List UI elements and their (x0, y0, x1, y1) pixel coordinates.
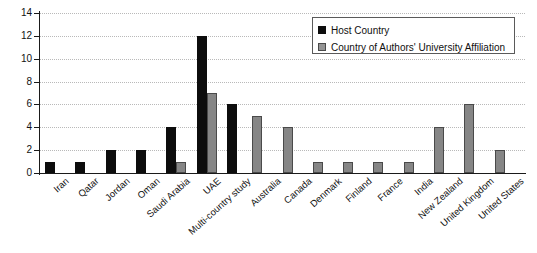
bar (197, 36, 207, 173)
bar-group (131, 13, 161, 173)
y-axis-tick-label: 14 (0, 8, 32, 18)
legend-label: Host Country (331, 25, 389, 36)
bar-group (161, 13, 191, 173)
x-axis-tick-label: Jordan (103, 176, 131, 203)
y-axis-tick-label: 8 (0, 77, 32, 87)
x-axis-labels: IranQatarJordanOmanSaudi ArabiaUAEMulti-… (40, 176, 537, 253)
y-axis-tick-label: 0 (0, 168, 32, 178)
bar-group (70, 13, 100, 173)
bar (404, 162, 414, 173)
chart-legend: Host Country Country of Authors' Univers… (312, 17, 515, 54)
bar (495, 150, 505, 173)
legend-label: Country of Authors' University Affiliati… (331, 42, 505, 53)
bar (434, 127, 444, 173)
bar-group (252, 13, 282, 173)
x-axis-tick-label: UAE (201, 176, 222, 197)
bar (106, 150, 116, 173)
y-axis-tick-label: 12 (0, 31, 32, 41)
bar (464, 104, 474, 173)
bar-group (283, 13, 313, 173)
bar-chart: 02468101214 IranQatarJordanOmanSaudi Ara… (0, 0, 537, 253)
x-axis-tick-label: Finland (344, 176, 374, 204)
x-axis-tick-label: France (376, 176, 405, 203)
y-axis-tick-label: 6 (0, 99, 32, 109)
x-axis-tick-label: Qatar (77, 176, 101, 199)
x-axis-tick-label: Denmark (308, 176, 343, 209)
bar (313, 162, 323, 173)
x-axis-tick-label: Oman (136, 176, 162, 201)
bar-group (222, 13, 252, 173)
bar (343, 162, 353, 173)
bar (75, 162, 85, 173)
x-axis-tick-label: Iran (52, 176, 71, 194)
bar (45, 162, 55, 173)
x-axis-line (39, 173, 526, 174)
bar (252, 116, 262, 173)
y-axis-tick-label: 4 (0, 122, 32, 132)
bar (136, 150, 146, 173)
legend-item-author-affiliation: Country of Authors' University Affiliati… (318, 39, 509, 55)
bar (176, 162, 186, 173)
y-axis-tick-label: 2 (0, 145, 32, 155)
legend-item-host-country: Host Country (318, 22, 509, 38)
bar (207, 93, 217, 173)
bar (373, 162, 383, 173)
bar-group (40, 13, 70, 173)
bar-group (101, 13, 131, 173)
x-axis-tick-label: India (413, 176, 435, 197)
x-axis-tick-label: Australia (249, 176, 283, 208)
bar-group (192, 13, 222, 173)
bar (283, 127, 293, 173)
bar (166, 127, 176, 173)
black-square-icon (318, 26, 326, 34)
gray-square-icon (318, 43, 326, 51)
bar (227, 104, 237, 173)
y-axis-tick-label: 10 (0, 54, 32, 64)
